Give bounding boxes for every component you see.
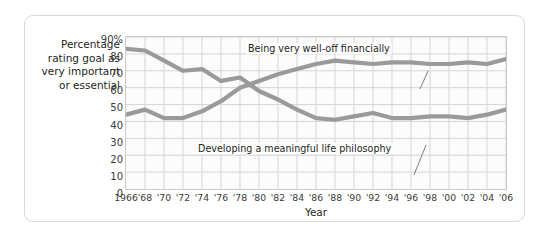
x-tick-1998: '98 [423, 192, 437, 203]
x-tick-2006: '06 [499, 192, 513, 203]
y-tick-70: 70 [110, 68, 123, 79]
x-tick-1986: '86 [309, 192, 323, 203]
y-tick-50: 50 [110, 102, 123, 113]
x-tick-1978: '78 [233, 192, 247, 203]
x-tick-1994: '94 [385, 192, 399, 203]
x-tick-1982: '82 [271, 192, 285, 203]
y-tick-90: 90% [101, 34, 123, 45]
x-tick-1984: '84 [290, 192, 304, 203]
y-tick-10: 10 [110, 170, 123, 181]
x-tick-2000: '00 [442, 192, 456, 203]
x-axis-tick-labels: 1966'68'70'72'74'76'78'80'82'84'86'88'90… [125, 192, 507, 206]
y-tick-20: 20 [110, 153, 123, 164]
x-tick-2004: '04 [480, 192, 494, 203]
x-tick-1980: '80 [252, 192, 266, 203]
leader-line-financial [420, 71, 428, 89]
plot-area [125, 36, 507, 190]
y-tick-40: 40 [110, 119, 123, 130]
y-tick-60: 60 [110, 85, 123, 96]
x-tick-1968: '68 [138, 192, 152, 203]
y-axis-tick-labels: 0102030405060708090% [96, 34, 123, 198]
x-tick-1970: '70 [157, 192, 171, 203]
y-tick-80: 80 [110, 51, 123, 62]
x-axis-title: Year [125, 206, 507, 218]
chart-screenshot: Percentage rating goal as very important… [0, 0, 550, 237]
x-tick-1974: '74 [195, 192, 209, 203]
series-label-philosophy: Developing a meaningful life philosophy [196, 143, 393, 154]
x-tick-1990: '90 [347, 192, 361, 203]
leader-line-philosophy [414, 145, 426, 175]
x-tick-1966: 1966 [114, 192, 138, 203]
x-tick-1992: '92 [366, 192, 380, 203]
x-tick-1972: '72 [176, 192, 190, 203]
x-tick-2002: '02 [461, 192, 475, 203]
y-tick-30: 30 [110, 136, 123, 147]
plot-svg [126, 37, 506, 189]
x-tick-1976: '76 [214, 192, 228, 203]
series-label-financial: Being very well-off financially [246, 43, 392, 54]
x-tick-1996: '96 [404, 192, 418, 203]
x-tick-1988: '88 [328, 192, 342, 203]
